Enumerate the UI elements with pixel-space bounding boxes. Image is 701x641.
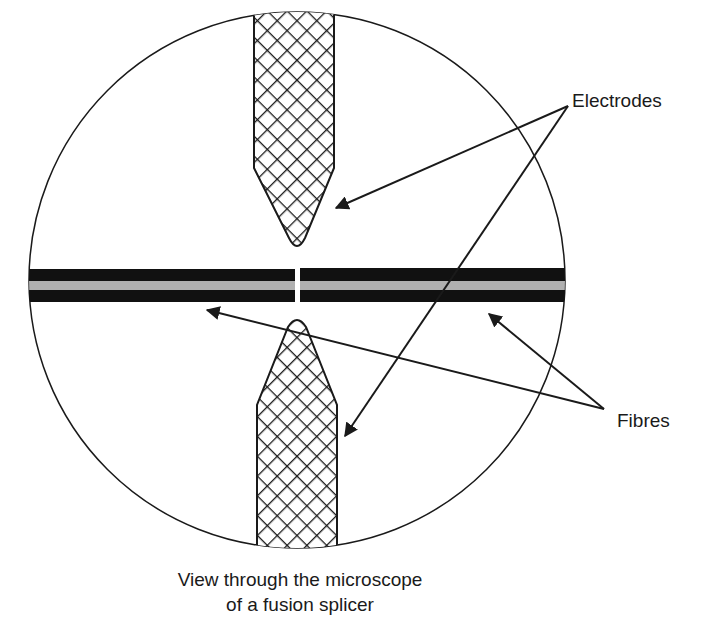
diagram-caption: View through the microscope of a fusion … [130,567,470,617]
top-electrode [254,0,334,246]
left-fibre [28,269,295,302]
caption-line-2: of a fusion splicer [130,592,470,617]
electrodes-label: Electrodes [572,90,662,112]
right-fibre [300,268,565,302]
bottom-electrode [257,320,337,560]
fibres-label: Fibres [617,410,670,432]
caption-line-1: View through the microscope [130,567,470,592]
